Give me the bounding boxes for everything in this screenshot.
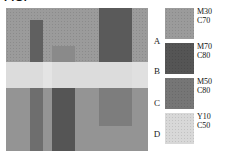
figure-root: FIG. ABCD M30C70M70C80M50C80Y10C50: [0, 0, 226, 155]
legend-swatch-2: [165, 43, 194, 74]
row-label-c: C: [151, 98, 163, 108]
legend-caption-4: Y10C50: [197, 113, 226, 130]
legend-caption-3: M50C80: [197, 78, 226, 95]
legend-caption-2-line2: C80: [197, 52, 226, 61]
legend-caption-1-line2: C70: [197, 17, 226, 26]
main-image-panel: [6, 8, 148, 151]
row-label-d: D: [151, 129, 163, 139]
legend-caption-3-line2: C80: [197, 87, 226, 96]
image-bar-1-dark-lower: [30, 88, 43, 151]
legend-caption-2: M70C80: [197, 43, 226, 60]
legend-swatch-3: [165, 78, 194, 109]
row-label-a: A: [151, 36, 163, 46]
figure-caption-cropped: FIG.: [4, 0, 27, 2]
image-bar-3-mid-lower: [99, 88, 132, 126]
image-bar-2-dark-lower: [52, 88, 75, 151]
legend-caption-1: M30C70: [197, 8, 226, 25]
image-light-notch-right: [132, 62, 148, 88]
image-band-light: [6, 62, 148, 88]
legend-swatch-1: [165, 8, 194, 39]
row-label-b: B: [151, 66, 163, 76]
legend-swatch-4: [165, 113, 194, 144]
legend-caption-4-line2: C50: [197, 122, 226, 131]
image-light-notch-left: [43, 62, 52, 88]
image-bar-3-dark-upper: [99, 8, 132, 62]
